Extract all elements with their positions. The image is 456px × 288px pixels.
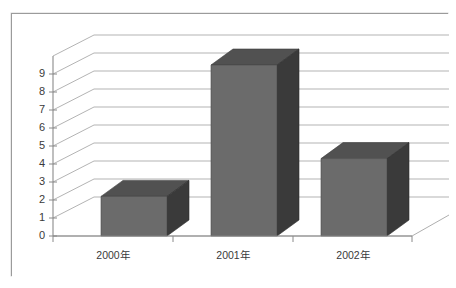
bar-2000[interactable] [101, 180, 189, 236]
y-tick-3: 3 [39, 175, 45, 187]
screenshot-root: 0 1 2 3 4 5 6 7 8 9 [0, 0, 456, 288]
bar-2002[interactable] [321, 143, 409, 236]
y-tick-6: 6 [39, 121, 45, 133]
bar-2001-front [211, 65, 277, 236]
x-label-2002: 2002年 [336, 249, 369, 261]
bar-2000-front [101, 196, 167, 236]
y-tick-5: 5 [39, 139, 45, 151]
y-tick-2: 2 [39, 193, 45, 205]
y-tick-7: 7 [39, 103, 45, 115]
y-tick-0: 0 [39, 229, 45, 241]
bar-2001[interactable] [211, 49, 299, 236]
y-tick-4: 4 [39, 157, 45, 169]
bar-chart-3d: 0 1 2 3 4 5 6 7 8 9 [12, 14, 449, 277]
bar-2002-front [321, 159, 387, 236]
chart-frame: 0 1 2 3 4 5 6 7 8 9 [11, 13, 448, 276]
bar-2002-side [387, 143, 409, 236]
y-tick-9: 9 [39, 67, 45, 79]
y-tick-8: 8 [39, 85, 45, 97]
y-tick-1: 1 [39, 211, 45, 223]
x-label-2000: 2000年 [96, 249, 129, 261]
x-label-2001: 2001年 [216, 249, 249, 261]
bar-2001-side [277, 49, 299, 236]
